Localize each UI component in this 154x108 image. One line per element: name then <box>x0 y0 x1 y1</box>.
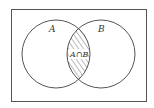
intersection-label: A∩B <box>69 50 88 59</box>
set-a-label: A <box>48 24 56 34</box>
set-b-label: B <box>97 24 105 34</box>
venn-diagram: A B A∩B <box>0 0 154 108</box>
